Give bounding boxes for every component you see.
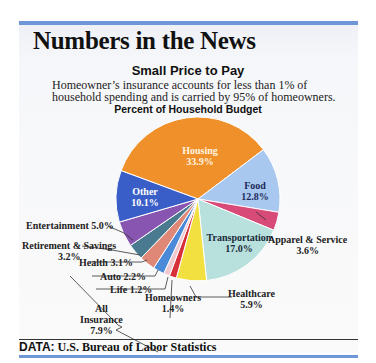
label-value: 1.4% [145, 303, 201, 314]
label-homeowners: Homeowners 1.4% [145, 292, 201, 314]
label-all-insurance: All Insurance 7.9% [80, 303, 123, 336]
label-name: Healthcare [228, 288, 275, 299]
label-value: 33.9% [175, 156, 225, 167]
label-entertainment: Entertainment 5.0% [26, 220, 114, 231]
label-value: 3.6% [268, 245, 347, 256]
label-name: Apparel & Service [268, 234, 347, 245]
bottom-accent-bar [19, 355, 358, 358]
label-retirement: Retirement & Savings 3.2% [22, 240, 116, 262]
label-value: 5.9% [228, 299, 275, 310]
label-line1: All [80, 303, 123, 314]
label-name: Transportation [199, 232, 279, 243]
label-apparel: Apparel & Service 3.6% [268, 234, 347, 256]
slice-label-food: Food 12.8% [232, 180, 278, 202]
label-healthcare: Healthcare 5.9% [228, 288, 275, 310]
label-name: Food [232, 180, 278, 191]
label-value: 10.1% [122, 197, 168, 208]
slice-label-other: Other 10.1% [122, 186, 168, 208]
slice-label-transportation: Transportation 17.0% [199, 232, 279, 254]
label-name: Other [122, 186, 168, 197]
source-note: DATA: U.S. Bureau of Labor Statistics [19, 340, 216, 355]
slice-label-housing: Housing 33.9% [175, 145, 225, 167]
label-life: Life 1.2% [110, 284, 152, 295]
label-name: Housing [175, 145, 225, 156]
label-line2: Insurance [80, 314, 123, 325]
label-value: 17.0% [199, 243, 279, 254]
label-value: 3.2% [22, 251, 116, 262]
label-name: Retirement & Savings [22, 240, 116, 251]
source-text: U.S. Bureau of Labor Statistics [58, 340, 217, 354]
label-value: 7.9% [80, 325, 123, 336]
label-value: 12.8% [232, 191, 278, 202]
label-auto: Auto 2.2% [100, 271, 146, 282]
label-name: Homeowners [145, 292, 201, 303]
source-key: DATA: [19, 340, 55, 354]
